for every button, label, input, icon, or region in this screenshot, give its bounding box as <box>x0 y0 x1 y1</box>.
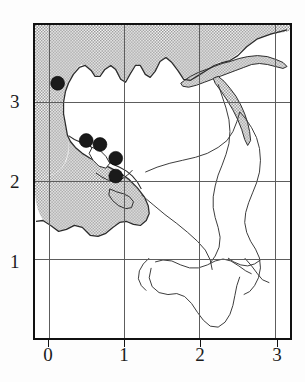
data-point[interactable] <box>109 151 123 165</box>
ytick-label-3: 3 <box>10 92 20 111</box>
distribution-map-figure: 0 1 2 3 3 2 1 <box>0 0 305 382</box>
data-point[interactable] <box>109 169 123 183</box>
plot-clip <box>35 25 290 338</box>
plot-frame <box>33 23 292 340</box>
xtick-label-3: 3 <box>272 345 282 364</box>
xtick-label-0: 0 <box>43 345 53 364</box>
data-points-layer <box>35 25 290 338</box>
data-point[interactable] <box>79 134 93 148</box>
xtick-label-1: 1 <box>119 345 129 364</box>
data-point[interactable] <box>93 138 107 152</box>
xtick-label-2: 2 <box>195 345 205 364</box>
scatter-series <box>51 76 123 183</box>
data-point[interactable] <box>51 76 65 90</box>
ytick-label-1: 1 <box>10 252 20 271</box>
ytick-label-2: 2 <box>10 172 20 191</box>
